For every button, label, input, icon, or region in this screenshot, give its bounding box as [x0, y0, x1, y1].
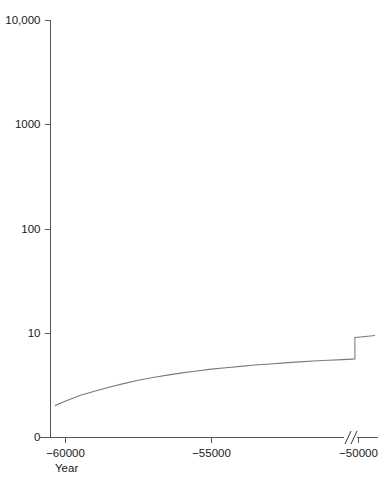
x-axis-tick-label: −50000	[339, 448, 378, 460]
data-series-line	[55, 336, 375, 406]
y-axis-tick-label: 10	[28, 328, 41, 340]
y-axis-ticks	[45, 21, 51, 438]
y-axis-tick-label: 10,000	[5, 15, 40, 27]
x-axis-title: Year	[55, 463, 78, 475]
axis-break-icon	[345, 431, 357, 444]
chart-canvas	[0, 0, 381, 486]
y-axis-tick-label: 1000	[15, 119, 41, 131]
y-axis-tick-label: 100	[21, 224, 40, 236]
x-axis-tick-label: −60000	[46, 448, 85, 460]
x-axis-tick-label: −55000	[192, 448, 231, 460]
y-axis-tick-label: 0	[34, 432, 40, 444]
chart-figure: 10,0001000100100 −60000−55000−50000 Year	[0, 0, 381, 486]
